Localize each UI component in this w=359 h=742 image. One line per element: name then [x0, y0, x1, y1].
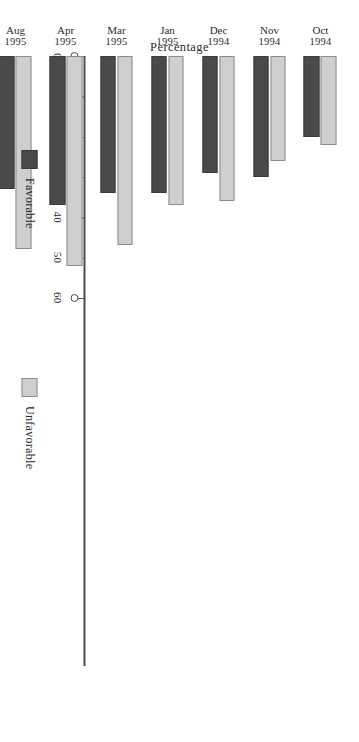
legend-item-unfavorable: Unfavorable — [21, 378, 37, 469]
bar-favorable — [202, 56, 217, 173]
legend-label-favorable: Favorable — [22, 178, 37, 229]
bar-unfavorable — [117, 56, 132, 245]
chart-legend: Favorable Unfavorable — [9, 150, 49, 570]
plot-area: 0102030405060 Oct1994Nov1994Dec1994Jan19… — [83, 56, 345, 666]
bar-favorable — [100, 56, 115, 193]
bar-unfavorable — [320, 56, 335, 145]
category-label: Mar1995 — [105, 24, 127, 48]
axis-tick-label: 50 — [51, 252, 63, 264]
bar-chart: 0102030405060 Oct1994Nov1994Dec1994Jan19… — [0, 0, 359, 742]
category-label: Aug1995 — [4, 24, 26, 48]
bar-favorable — [49, 56, 64, 205]
axis-tick-label: 60 — [51, 292, 63, 304]
bar-unfavorable — [168, 56, 183, 205]
category-label: Nov1994 — [258, 24, 280, 48]
axis-tick-marker — [70, 294, 78, 302]
chart-figure: 0102030405060 Oct1994Nov1994Dec1994Jan19… — [0, 0, 359, 742]
value-axis-line — [83, 56, 85, 666]
category-label: Oct1994 — [309, 24, 331, 48]
bar-unfavorable — [270, 56, 285, 161]
bar-unfavorable — [219, 56, 234, 201]
category-label: Dec1994 — [207, 24, 229, 48]
bar-favorable — [303, 56, 318, 137]
legend-item-favorable: Favorable — [21, 150, 37, 229]
axis-tick-label: 40 — [51, 211, 63, 223]
category-label: Apr1995 — [55, 24, 77, 48]
legend-swatch-unfavorable — [21, 378, 37, 397]
legend-label-unfavorable: Unfavorable — [22, 406, 37, 469]
bar-favorable — [151, 56, 166, 193]
y-axis-title: Percentage — [150, 40, 209, 55]
bar-unfavorable — [66, 56, 81, 266]
legend-swatch-favorable — [21, 150, 37, 169]
bar-favorable — [253, 56, 268, 177]
